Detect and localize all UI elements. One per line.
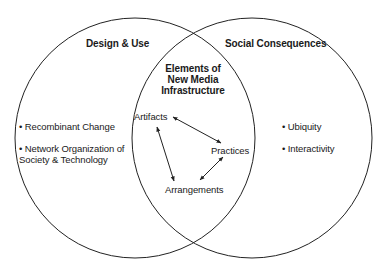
- arrow-practices-arrangements: [200, 157, 223, 180]
- recombinant-change-item: Recombinant Change: [19, 121, 115, 132]
- node-artifacts: Artifacts: [134, 111, 167, 122]
- node-arrangements: Arrangements: [165, 184, 223, 195]
- interactivity-item: Interactivity: [282, 143, 335, 154]
- venn-diagram: Design & Use Recombinant Change Network …: [0, 0, 382, 275]
- network-organization-line1: Network Organization of: [19, 143, 124, 154]
- arrow-artifacts-arrangements: [157, 127, 174, 181]
- social-consequences-title: Social Consequences: [225, 38, 326, 49]
- intersection-title-line2: New Media: [155, 74, 231, 85]
- intersection-title: Elements of New Media Infrastructure: [155, 63, 231, 96]
- network-organization-line2: Society & Technology: [19, 154, 124, 165]
- network-organization-item: Network Organization of Society & Techno…: [19, 143, 124, 165]
- intersection-title-line3: Infrastructure: [155, 85, 231, 96]
- arrow-artifacts-practices: [173, 117, 221, 143]
- circle-social-consequences: [132, 18, 372, 258]
- ubiquity-item: Ubiquity: [282, 121, 321, 132]
- node-practices: Practices: [211, 145, 249, 156]
- design-use-title: Design & Use: [86, 38, 149, 49]
- circle-design-use: [15, 18, 255, 258]
- intersection-title-line1: Elements of: [155, 63, 231, 74]
